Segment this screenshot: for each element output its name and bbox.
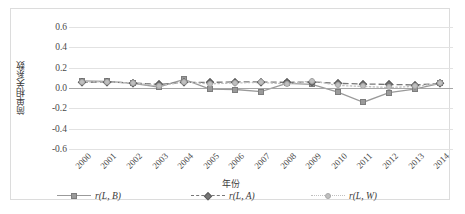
x-tick-label: 2014: [423, 151, 451, 179]
data-point-marker: [156, 83, 162, 89]
y-tick-label: -0.2: [52, 103, 67, 113]
data-point-marker: [335, 89, 341, 95]
data-point-marker: [437, 80, 443, 86]
y-tick-label: 0.4: [55, 42, 67, 52]
chart-legend: r(L, B)r(L, A)r(L, W): [11, 189, 451, 203]
x-tick-label: 2012: [372, 151, 400, 179]
chart-frame: 简单相关系数 0.60.40.20.0-0.2-0.4-0.6 20002001…: [10, 8, 450, 200]
x-tick-label: 2003: [141, 151, 169, 179]
y-axis-title: 简单相关系数: [13, 27, 27, 149]
data-point-marker: [284, 81, 290, 87]
legend-marker-icon: [71, 193, 77, 199]
y-tick-label: 0.6: [55, 22, 67, 32]
y-tick-label: 0.2: [55, 63, 67, 73]
legend-item-2[interactable]: r(L, A): [191, 191, 255, 201]
data-point-marker: [232, 87, 238, 93]
data-point-marker: [232, 80, 238, 86]
x-tick-label: 2000: [65, 151, 93, 179]
x-axis-tick-labels: 2000200120022003200420052006200720082009…: [69, 151, 453, 179]
legend-label: r(L, W): [349, 191, 377, 201]
x-tick-label: 2006: [218, 151, 246, 179]
data-point-marker: [360, 83, 366, 89]
legend-item-3[interactable]: r(L, W): [311, 191, 377, 201]
x-tick-label: 2001: [90, 151, 118, 179]
data-point-marker: [309, 78, 315, 84]
x-tick-label: 2007: [244, 151, 272, 179]
legend-marker-icon: [204, 192, 212, 200]
legend-item-1[interactable]: r(L, B): [57, 191, 121, 201]
series-markers: [69, 27, 453, 149]
legend-swatch-icon: [311, 191, 345, 201]
x-tick-label: 2002: [116, 151, 144, 179]
x-tick-label: 2005: [193, 151, 221, 179]
data-point-marker: [130, 80, 136, 86]
data-point-marker: [104, 79, 110, 85]
x-tick-label: 2013: [397, 151, 425, 179]
legend-swatch-icon: [57, 191, 91, 201]
data-point-marker: [412, 83, 418, 89]
plot-area: [69, 27, 453, 149]
legend-marker-icon: [325, 193, 331, 199]
y-tick-label: -0.4: [52, 124, 67, 134]
data-point-marker: [335, 82, 341, 88]
data-point-marker: [207, 81, 213, 87]
y-tick-label: -0.6: [52, 144, 67, 154]
data-point-marker: [258, 89, 264, 95]
x-tick-label: 2011: [346, 151, 374, 179]
x-tick-label: 2010: [321, 151, 349, 179]
legend-label: r(L, A): [229, 191, 255, 201]
data-point-marker: [181, 79, 187, 85]
x-tick-label: 2008: [269, 151, 297, 179]
data-point-marker: [360, 99, 366, 105]
data-point-marker: [79, 79, 85, 85]
y-tick-label: 0.0: [55, 83, 67, 93]
y-axis-tick-labels: 0.60.40.20.0-0.2-0.4-0.6: [29, 27, 67, 149]
legend-swatch-icon: [191, 191, 225, 201]
data-point-marker: [258, 79, 264, 85]
legend-label: r(L, B): [95, 191, 121, 201]
data-point-marker: [386, 84, 392, 90]
gridline: [69, 149, 453, 150]
x-tick-label: 2009: [295, 151, 323, 179]
x-tick-label: 2004: [167, 151, 195, 179]
